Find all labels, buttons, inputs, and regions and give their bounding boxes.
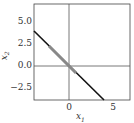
highlight-segment: [49, 46, 76, 73]
ytick-0: 0.0: [2, 60, 32, 70]
ytick-5: 5.0: [2, 16, 32, 26]
ytick-neg-2-5: −2.5: [2, 82, 32, 92]
y-axis-title: x2: [0, 51, 10, 60]
xtick-5: 5: [103, 102, 123, 112]
plot-frame: [34, 4, 130, 100]
ytick-2-5: 2.5: [2, 38, 32, 48]
x-axis-title: x1: [76, 111, 85, 123]
